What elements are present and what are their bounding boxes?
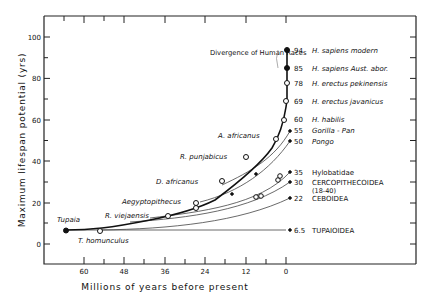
svg-text:20: 20 — [32, 200, 41, 208]
svg-text:H. erectus pekinensis: H. erectus pekinensis — [312, 80, 388, 88]
svg-text:H. habilis: H. habilis — [312, 116, 345, 124]
svg-text:Gorilla - Pan: Gorilla - Pan — [312, 127, 355, 135]
x-axis-title: Millions of years before present — [81, 282, 248, 292]
svg-text:36: 36 — [161, 268, 170, 276]
svg-text:R. punjabicus: R. punjabicus — [180, 153, 228, 161]
svg-text:30: 30 — [294, 179, 303, 187]
svg-text:12: 12 — [242, 268, 251, 276]
svg-text:50: 50 — [294, 138, 303, 146]
svg-text:A. africanus: A. africanus — [217, 132, 260, 140]
y-axis-title: Maximum lifespan potential (yrs) — [17, 53, 27, 228]
svg-text:CERCOPITHECOIDEA: CERCOPITHECOIDEA — [312, 179, 384, 187]
svg-text:78: 78 — [294, 80, 303, 88]
svg-text:(18-40): (18-40) — [312, 187, 336, 195]
svg-text:H. sapiens Aust. abor.: H. sapiens Aust. abor. — [312, 65, 388, 73]
svg-text:60: 60 — [32, 117, 41, 125]
svg-text:22: 22 — [294, 195, 303, 203]
svg-text:H. erectus javanicus: H. erectus javanicus — [312, 98, 383, 106]
svg-text:Divergence of Human Races: Divergence of Human Races — [210, 49, 307, 57]
svg-text:94: 94 — [294, 47, 303, 55]
x-tick-labels: 60 48 36 24 12 0 — [80, 268, 289, 276]
svg-text:H. sapiens modern: H. sapiens modern — [312, 47, 378, 55]
y-tick-labels: 0 20 40 60 80 100 — [28, 34, 41, 249]
svg-text:35: 35 — [294, 169, 303, 177]
svg-text:CEBOIDEA: CEBOIDEA — [312, 195, 348, 203]
svg-text:T. homunculus: T. homunculus — [78, 237, 129, 245]
svg-text:100: 100 — [28, 34, 41, 42]
endpoint-labels: 94H. sapiens modern 85H. sapiens Aust. a… — [294, 47, 388, 236]
svg-text:85: 85 — [294, 65, 303, 73]
divergence-annotation: Divergence of Human Races — [210, 49, 307, 68]
svg-text:TUPAIOIDEA: TUPAIOIDEA — [311, 227, 354, 235]
svg-text:24: 24 — [201, 268, 210, 276]
svg-text:Tupaia: Tupaia — [57, 216, 80, 224]
svg-text:Pongo: Pongo — [312, 138, 334, 146]
svg-text:D. africanus: D. africanus — [156, 178, 198, 186]
svg-text:Hylobatidae: Hylobatidae — [312, 169, 354, 177]
svg-text:55: 55 — [294, 127, 303, 135]
svg-text:69: 69 — [294, 98, 303, 106]
svg-text:0: 0 — [37, 241, 41, 249]
svg-text:48: 48 — [120, 268, 129, 276]
svg-text:6.5: 6.5 — [294, 227, 305, 235]
lifespan-chart: 0 20 40 60 80 100 60 48 36 24 12 0 Milli… — [0, 0, 434, 304]
svg-text:Aegyptopithecus: Aegyptopithecus — [121, 198, 181, 206]
svg-text:60: 60 — [80, 268, 89, 276]
svg-text:80: 80 — [32, 75, 41, 83]
svg-text:0: 0 — [284, 268, 288, 276]
svg-text:60: 60 — [294, 116, 303, 124]
svg-text:40: 40 — [32, 158, 41, 166]
svg-text:R. viejaensis: R. viejaensis — [105, 212, 149, 220]
